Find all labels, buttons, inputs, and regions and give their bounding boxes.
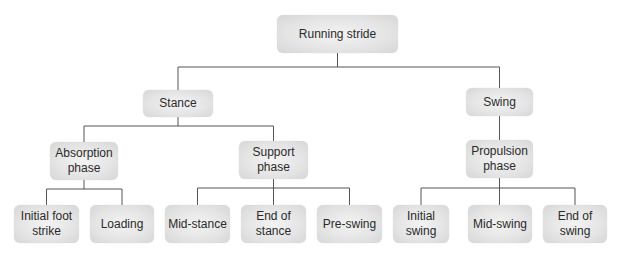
- node-end-of-swing: End of swing: [543, 205, 607, 243]
- node-pre-swing: Pre-swing: [317, 205, 382, 243]
- node-stance: Stance: [143, 90, 213, 117]
- node-end-of-stance: End of stance: [241, 205, 306, 243]
- node-running-stride: Running stride: [277, 15, 398, 53]
- node-initial-foot-strike: Initial foot strike: [14, 205, 79, 243]
- node-mid-stance: Mid-stance: [165, 205, 230, 243]
- node-propulsion-phase: Propulsion phase: [466, 140, 533, 178]
- node-loading: Loading: [90, 205, 154, 243]
- node-initial-swing: Initial swing: [393, 205, 449, 243]
- node-mid-swing: Mid-swing: [468, 205, 532, 243]
- node-swing: Swing: [466, 88, 533, 116]
- node-absorption-phase: Absorption phase: [50, 142, 118, 180]
- node-support-phase: Support phase: [239, 141, 308, 179]
